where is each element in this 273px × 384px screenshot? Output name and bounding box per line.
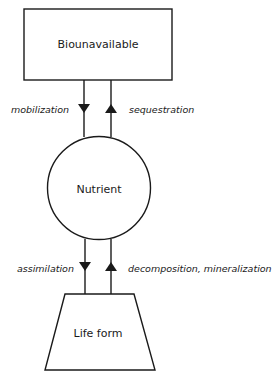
nutrient-label: Nutrient xyxy=(76,183,121,196)
arrow-up-icon xyxy=(105,104,117,113)
sequestration-label: sequestration xyxy=(129,104,194,115)
life-form-label: Life form xyxy=(74,327,123,340)
biounavailable-label: Biounavailable xyxy=(58,38,139,51)
arrow-up-icon xyxy=(105,262,117,271)
decomposition-mineralization-label: decomposition, mineralization xyxy=(128,263,272,274)
arrow-down-icon xyxy=(79,262,91,271)
assimilation-label: assimilation xyxy=(17,263,74,274)
nutrient-cycle-diagram xyxy=(0,0,273,384)
arrow-down-icon xyxy=(78,104,90,113)
mobilization-label: mobilization xyxy=(11,104,69,115)
